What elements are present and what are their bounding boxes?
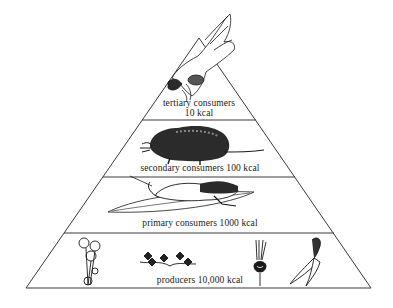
secondary-consumers-label: secondary consumers 100 kcal <box>130 163 270 173</box>
carrot-icon <box>290 238 320 286</box>
tertiary-consumers-name: tertiary consumers <box>149 98 249 108</box>
pyramid-graphic <box>0 0 393 308</box>
energy-pyramid-diagram: tertiary consumers 10 kcal secondary con… <box>0 0 393 308</box>
producers-label: producers 10,000 kcal <box>150 275 250 285</box>
primary-consumers-label: primary consumers 1000 kcal <box>128 218 272 228</box>
grasshopper-on-leaf-icon <box>108 176 254 212</box>
tertiary-consumers-label: tertiary consumers 10 kcal <box>149 98 249 118</box>
tertiary-consumers-energy: 10 kcal <box>149 108 249 118</box>
hawk-icon <box>168 14 235 102</box>
radish-icon <box>254 240 266 286</box>
clover-sprig-icon <box>140 252 196 266</box>
flower-plant-icon <box>79 238 100 285</box>
shrew-icon <box>140 126 264 165</box>
